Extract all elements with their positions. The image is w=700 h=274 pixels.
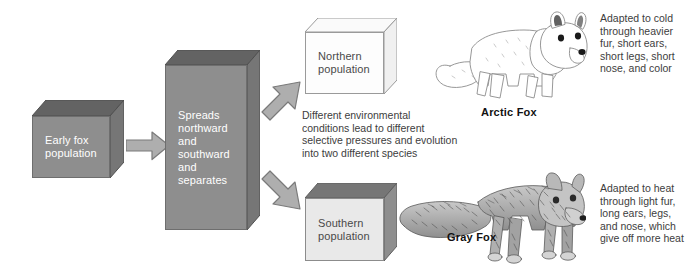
gray-fox-caption: Gray Fox <box>447 231 496 243</box>
arrow-early-to-spreads <box>126 131 170 161</box>
gray-fox-eye-left <box>553 196 559 203</box>
diagram-canvas: Early fox population Spreads northward a… <box>0 0 700 274</box>
box-southern-population: Southern population <box>305 183 397 261</box>
arctic-fox-caption: Arctic Fox <box>481 106 537 118</box>
box-early-fox-population-front: Early fox population <box>32 116 110 178</box>
box-northern-population-front: Northern population <box>305 32 384 94</box>
arctic-fox-nose <box>578 49 585 55</box>
box-early-fox-population: Early fox population <box>32 100 124 178</box>
box-early-fox-population-label: Early fox population <box>33 134 97 160</box>
arctic-fox-eye-right <box>575 33 581 40</box>
box-southern-population-label: Southern population <box>306 217 370 243</box>
box-spreads: Spreads northward and southward and sepa… <box>165 50 260 230</box>
box-spreads-label: Spreads northward and southward and sepa… <box>166 109 230 187</box>
gray-fox-illustration <box>396 172 586 268</box>
box-southern-population-front: Southern population <box>305 198 384 261</box>
box-northern-population: Northern population <box>305 18 397 94</box>
arctic-fox-eye-left <box>558 35 564 42</box>
middle-note: Different environmental conditions lead … <box>302 109 502 159</box>
gray-fox-note: Adapted to heat through light fur, long … <box>600 182 700 245</box>
arctic-fox-note: Adapted to cold through heavier fur, sho… <box>600 12 700 75</box>
arctic-fox-illustration <box>432 2 590 104</box>
box-spreads-front: Spreads northward and southward and sepa… <box>165 65 247 230</box>
gray-fox-eye-right <box>570 194 576 201</box>
box-northern-population-label: Northern population <box>306 50 370 76</box>
